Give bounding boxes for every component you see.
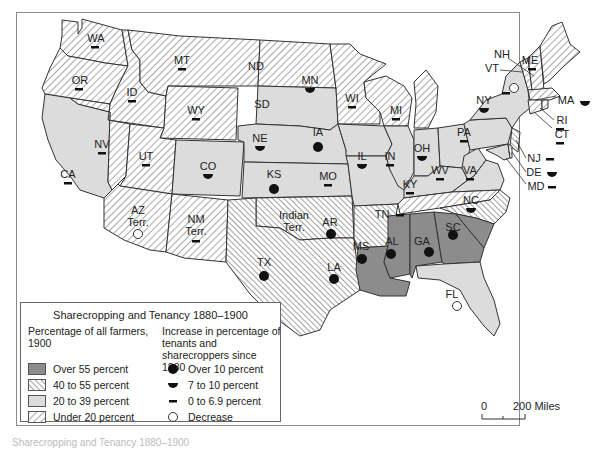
label-TN: TN — [375, 208, 390, 220]
dot-icon-AR — [326, 229, 336, 239]
legend-title: Sharecropping and Tenancy 1880–1900 — [21, 309, 280, 321]
filled-circle-icon — [162, 363, 184, 375]
label-MS: MS — [353, 240, 370, 252]
label-NM: NM — [187, 213, 204, 225]
open-circle-icon — [162, 411, 184, 423]
label-NY: NY — [476, 94, 492, 106]
label-RI: RI — [557, 114, 568, 126]
bar-icon-MT — [178, 68, 186, 71]
legend-label: 20 to 39 percent — [53, 395, 129, 407]
label-AL: AL — [385, 235, 398, 247]
bar-icon-NM — [192, 240, 200, 243]
bar-icon-OR — [75, 88, 83, 91]
label-KY: KY — [403, 178, 418, 190]
label-VT: VT — [485, 62, 499, 74]
dot-icon-IA — [313, 142, 323, 152]
state-ND — [258, 40, 336, 88]
label-NV: NV — [94, 138, 110, 150]
legend-row-under20: Under 20 percent — [28, 409, 153, 425]
legend-symbol-column: Increase in percentage of tenants and sh… — [162, 325, 282, 425]
bar-icon-WV — [436, 178, 444, 181]
bar-icon-WA — [91, 46, 99, 49]
state-ME — [540, 22, 580, 84]
swatch-40to55-icon — [28, 379, 46, 391]
label-ME: ME — [522, 54, 539, 66]
legend-row-over55: Over 55 percent — [28, 361, 153, 377]
label-WA: WA — [87, 32, 105, 44]
label-IL: IL — [357, 150, 366, 162]
label-SD: SD — [254, 98, 269, 110]
dot-icon-LA — [329, 274, 339, 284]
half-disc-icon-MA — [580, 101, 590, 106]
bar-icon-WI — [348, 106, 356, 109]
bar-icon-KY — [406, 192, 414, 195]
swatch-over55-icon — [28, 363, 46, 375]
bar-icon-VT — [502, 92, 510, 95]
bar-icon-VA — [466, 178, 474, 181]
bar-icon-CA — [64, 182, 72, 185]
label-NM-terr: Terr. — [185, 225, 206, 237]
bar-icon-WY — [192, 118, 200, 121]
label-MI: MI — [390, 104, 402, 116]
dot-icon-GA — [424, 247, 434, 257]
label-MN: MN — [301, 74, 318, 86]
legend-shading-column: Percentage of all farmers, 1900 Over 55 … — [28, 325, 153, 425]
legend-row-40to55: 40 to 55 percent — [28, 377, 153, 393]
open-circle-icon-FL — [453, 302, 462, 311]
label-OH: OH — [414, 142, 431, 154]
figure-caption: Sharecropping and Tenancy 1880–1900 — [12, 437, 189, 448]
scale-start-label: 0 — [481, 400, 487, 412]
label-DE: DE — [526, 166, 541, 178]
bar-icon-ME — [528, 68, 536, 71]
state-CT — [528, 100, 542, 114]
bar-icon-MI — [392, 118, 400, 121]
label-IA: IA — [313, 126, 324, 138]
bar-icon-ID — [128, 100, 136, 103]
legend-row-half: 7 to 10 percent — [162, 377, 282, 393]
label-ND: ND — [248, 60, 264, 72]
label-AR: AR — [322, 216, 337, 228]
scale-ruler-icon — [481, 413, 527, 421]
label-CO: CO — [200, 160, 217, 172]
label-WV: WV — [431, 164, 449, 176]
label-IT: Indian — [279, 209, 309, 221]
legend-label: Decrease — [188, 411, 233, 423]
half-disc-icon — [162, 379, 184, 391]
label-GA: GA — [414, 235, 431, 247]
bar-icon-TN — [396, 214, 404, 217]
map-legend: Sharecropping and Tenancy 1880–1900 Perc… — [20, 302, 281, 422]
legend-label: Over 55 percent — [53, 363, 128, 375]
small-bar-icon — [162, 395, 184, 407]
label-WY: WY — [187, 104, 205, 116]
bar-icon-NV — [98, 152, 106, 155]
label-NJ: NJ — [527, 152, 540, 164]
bar-icon-IN — [386, 164, 394, 167]
legend-label: 40 to 55 percent — [53, 379, 129, 391]
open-circle-icon-NH — [510, 84, 519, 93]
label-AZ-terr: Terr. — [127, 216, 148, 228]
label-WI: WI — [345, 92, 358, 104]
label-NH: NH — [494, 48, 510, 60]
label-NC: NC — [463, 194, 479, 206]
bar-icon-MD — [548, 186, 556, 189]
state-RI — [542, 100, 548, 110]
scale-end-label: 200 Miles — [513, 400, 560, 412]
dot-icon-KS — [269, 184, 279, 194]
bar-icon-RI — [556, 128, 564, 131]
label-ID: ID — [127, 86, 138, 98]
legend-row-dot: Over 10 percent — [162, 361, 282, 377]
dot-icon-TX — [259, 271, 269, 281]
legend-label: 7 to 10 percent — [188, 379, 258, 391]
legend-label: Under 20 percent — [53, 411, 134, 423]
legend-row-20to39: 20 to 39 percent — [28, 393, 153, 409]
legend-row-open: Decrease — [162, 409, 282, 425]
legend-shading-heading: Percentage of all farmers, 1900 — [28, 325, 153, 361]
half-disc-icon-DE — [547, 172, 557, 177]
label-TX: TX — [257, 256, 272, 268]
label-PA: PA — [457, 126, 472, 138]
legend-row-bar: 0 to 6.9 percent — [162, 393, 282, 409]
bar-icon-PA — [460, 140, 468, 143]
bar-icon-NJ — [546, 158, 554, 161]
state-MI — [414, 70, 438, 128]
label-IN: IN — [385, 150, 396, 162]
